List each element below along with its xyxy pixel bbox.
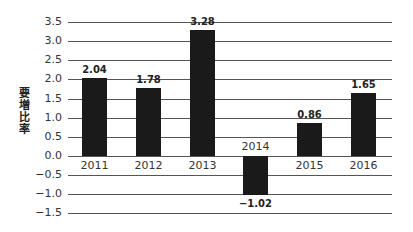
gridline	[68, 213, 392, 214]
value-label: 1.78	[124, 74, 174, 86]
gridline	[68, 194, 392, 195]
y-tick-label: 1.5	[32, 93, 62, 105]
value-label: −1.02	[231, 198, 281, 210]
gridline	[68, 118, 392, 119]
x-category-label: 2014	[231, 141, 281, 153]
x-category-label: 2016	[339, 160, 389, 172]
bar	[351, 93, 376, 156]
bar	[297, 123, 322, 156]
value-label: 1.65	[339, 79, 389, 91]
y-tick-label: 2.0	[32, 73, 62, 85]
y-axis-label: 要増比率	[17, 88, 31, 136]
value-label: 3.28	[178, 16, 228, 28]
gridline	[68, 175, 392, 176]
y-tick-label: 3.0	[32, 35, 62, 47]
bar	[136, 88, 161, 156]
x-category-label: 2011	[70, 160, 120, 172]
y-tick-label: 1.0	[32, 112, 62, 124]
gridline	[68, 99, 392, 100]
bar	[82, 78, 107, 156]
x-category-label: 2013	[178, 160, 228, 172]
gridline	[68, 41, 392, 42]
bar	[190, 30, 215, 156]
gridline	[68, 22, 392, 23]
value-label: 0.86	[285, 109, 335, 121]
y-tick-label: 0.0	[32, 150, 62, 162]
x-category-label: 2012	[124, 160, 174, 172]
gridline	[68, 156, 392, 157]
gridline	[68, 137, 392, 138]
x-category-label: 2015	[285, 160, 335, 172]
y-tick-label: −1.5	[32, 207, 62, 219]
value-label: 2.04	[70, 64, 120, 76]
y-tick-label: 3.5	[32, 16, 62, 28]
bar	[243, 156, 268, 195]
y-tick-label: 2.5	[32, 54, 62, 66]
y-tick-label: 0.5	[32, 131, 62, 143]
y-tick-label: −1.0	[32, 188, 62, 200]
gridline	[68, 60, 392, 61]
y-tick-label: −0.5	[32, 169, 62, 181]
